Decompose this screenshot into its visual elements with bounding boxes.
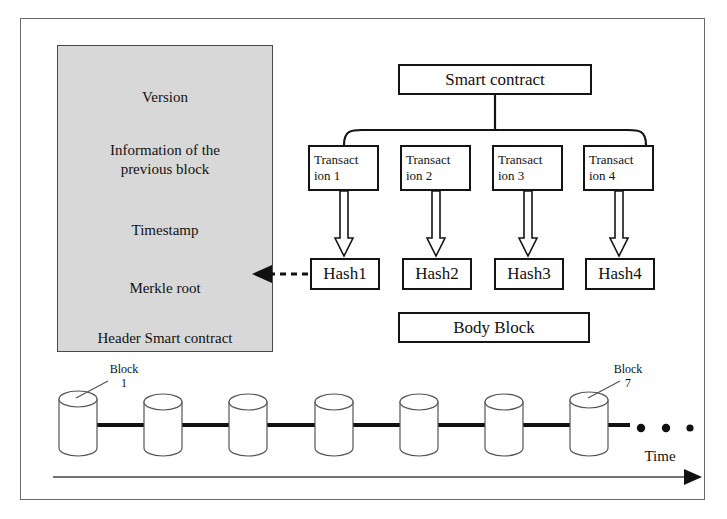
diagram-canvas: Version Information of the previous bloc… <box>0 0 727 519</box>
block-1-label-line1: Block <box>110 362 139 376</box>
hash-box: Hash2 <box>402 258 472 290</box>
header-field-version: Version <box>58 88 272 107</box>
hash-box: Hash4 <box>585 258 655 290</box>
header-field-previous-block-line1: Information of the <box>110 142 220 158</box>
header-panel-footer-label: Header Smart contract <box>58 330 272 347</box>
header-field-previous-block: Information of the previous block <box>58 141 272 179</box>
transaction-label-line1: Transact <box>589 152 633 168</box>
time-axis-label: Time <box>630 448 690 465</box>
transaction-box: Transact ion 2 <box>400 145 471 191</box>
hash-box: Hash1 <box>310 258 380 290</box>
transaction-box: Transact ion 4 <box>583 145 654 191</box>
block-7-label-line1: Block <box>614 362 643 376</box>
transaction-label-line2: ion 2 <box>406 168 450 184</box>
transaction-label-line1: Transact <box>406 152 450 168</box>
block-7-label-line2: 7 <box>625 376 631 390</box>
smart-contract-box: Smart contract <box>398 64 592 95</box>
header-field-merkle-root: Merkle root <box>58 279 272 298</box>
block-7-label: Block 7 <box>600 362 656 390</box>
header-field-timestamp: Timestamp <box>58 221 272 240</box>
transaction-label-line2: ion 4 <box>589 168 633 184</box>
block-1-label: Block 1 <box>96 362 152 390</box>
body-block-box: Body Block <box>398 312 590 343</box>
hash-box: Hash3 <box>494 258 564 290</box>
transaction-box: Transact ion 1 <box>308 145 379 191</box>
transaction-label-line1: Transact <box>498 152 542 168</box>
header-field-previous-block-line2: previous block <box>121 161 210 177</box>
block-header-panel: Version Information of the previous bloc… <box>57 45 273 352</box>
transaction-label-line1: Transact <box>314 152 358 168</box>
transaction-box: Transact ion 3 <box>492 145 563 191</box>
block-1-label-line2: 1 <box>121 376 127 390</box>
transaction-label-line2: ion 1 <box>314 168 358 184</box>
transaction-label-line2: ion 3 <box>498 168 542 184</box>
